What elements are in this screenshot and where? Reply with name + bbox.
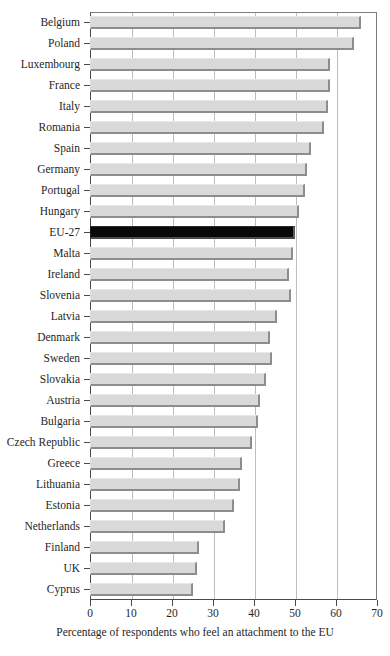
y-axis-label-lithuania: Lithuania (36, 474, 80, 495)
y-axis-label-finland: Finland (45, 537, 80, 558)
y-axis-label-czech-republic: Czech Republic (7, 432, 80, 453)
bar-row (90, 432, 377, 453)
x-axis-tick-10 (131, 600, 132, 606)
y-axis-label-poland: Poland (48, 33, 80, 54)
bar-row (90, 264, 377, 285)
x-axis-tick-label-60: 60 (321, 607, 351, 619)
bar-czech-republic[interactable] (90, 436, 252, 449)
bar-malta[interactable] (90, 247, 293, 260)
bar-row (90, 474, 377, 495)
y-axis-label-portugal: Portugal (41, 180, 80, 201)
bar-france[interactable] (90, 79, 330, 92)
x-axis-tick-0 (90, 600, 91, 606)
bar-row (90, 558, 377, 579)
bar-row (90, 201, 377, 222)
y-axis-label-hungary: Hungary (40, 201, 80, 222)
x-axis-tick-label-70: 70 (362, 607, 390, 619)
bar-row (90, 54, 377, 75)
bar-romania[interactable] (90, 121, 324, 134)
y-axis-label-bulgaria: Bulgaria (40, 411, 80, 432)
y-axis-label-austria: Austria (46, 390, 80, 411)
y-axis-label-uk: UK (63, 558, 80, 579)
x-axis-tick-20 (172, 600, 173, 606)
y-axis-label-greece: Greece (47, 453, 80, 474)
bar-row (90, 159, 377, 180)
bar-row (90, 453, 377, 474)
bar-row (90, 138, 377, 159)
bar-row (90, 285, 377, 306)
y-axis-label-netherlands: Netherlands (24, 516, 80, 537)
bars-layer (90, 12, 377, 600)
y-axis-label-malta: Malta (53, 243, 80, 264)
bar-denmark[interactable] (90, 331, 270, 344)
bar-row (90, 117, 377, 138)
bar-row (90, 348, 377, 369)
x-axis-tick-30 (213, 600, 214, 606)
x-axis-tick-label-30: 30 (198, 607, 228, 619)
bar-slovenia[interactable] (90, 289, 291, 302)
bar-cyprus[interactable] (90, 583, 193, 596)
bar-uk[interactable] (90, 562, 197, 575)
bar-luxembourg[interactable] (90, 58, 330, 71)
x-axis-tick-50 (295, 600, 296, 606)
bar-portugal[interactable] (90, 184, 305, 197)
y-axis-category-labels: BelgiumPolandLuxembourgFranceItalyRomani… (0, 12, 86, 600)
y-axis-label-ireland: Ireland (47, 264, 80, 285)
bar-row (90, 327, 377, 348)
y-axis-label-spain: Spain (54, 138, 80, 159)
y-axis-label-denmark: Denmark (37, 327, 80, 348)
y-axis-label-italy: Italy (59, 96, 80, 117)
y-axis-label-france: France (49, 75, 80, 96)
bar-eu-27[interactable] (90, 226, 295, 239)
bar-chart: BelgiumPolandLuxembourgFranceItalyRomani… (0, 0, 390, 656)
y-axis-label-slovakia: Slovakia (40, 369, 80, 390)
bar-row (90, 12, 377, 33)
bar-row (90, 537, 377, 558)
bar-italy[interactable] (90, 100, 328, 113)
bar-finland[interactable] (90, 541, 199, 554)
bar-row (90, 75, 377, 96)
bar-row (90, 495, 377, 516)
bar-germany[interactable] (90, 163, 307, 176)
y-axis-label-latvia: Latvia (51, 306, 80, 327)
y-axis-label-eu-27: EU-27 (49, 222, 80, 243)
bar-row (90, 180, 377, 201)
bar-hungary[interactable] (90, 205, 299, 218)
x-axis-tick-70 (377, 600, 378, 606)
bar-ireland[interactable] (90, 268, 289, 281)
bar-row (90, 369, 377, 390)
y-axis-label-romania: Romania (38, 117, 80, 138)
bar-poland[interactable] (90, 37, 354, 50)
bar-greece[interactable] (90, 457, 242, 470)
bar-estonia[interactable] (90, 499, 234, 512)
bar-row (90, 516, 377, 537)
bar-row (90, 411, 377, 432)
bar-bulgaria[interactable] (90, 415, 258, 428)
bar-row (90, 390, 377, 411)
x-axis-tick-label-50: 50 (280, 607, 310, 619)
bar-spain[interactable] (90, 142, 311, 155)
bar-netherlands[interactable] (90, 520, 225, 533)
bar-slovakia[interactable] (90, 373, 266, 386)
x-axis-tick-label-0: 0 (75, 607, 105, 619)
y-axis-label-slovenia: Slovenia (40, 285, 80, 306)
x-axis-title: Percentage of respondents who feel an at… (0, 626, 390, 638)
bar-sweden[interactable] (90, 352, 272, 365)
y-axis-label-germany: Germany (37, 159, 80, 180)
y-axis-label-cyprus: Cyprus (47, 579, 80, 600)
x-axis-tick-40 (254, 600, 255, 606)
y-axis-label-estonia: Estonia (46, 495, 81, 516)
bar-austria[interactable] (90, 394, 260, 407)
bar-row (90, 222, 377, 243)
bar-row (90, 306, 377, 327)
bar-row (90, 96, 377, 117)
bar-lithuania[interactable] (90, 478, 240, 491)
bar-belgium[interactable] (90, 16, 361, 29)
x-axis-tick-label-10: 10 (116, 607, 146, 619)
bar-latvia[interactable] (90, 310, 277, 323)
x-axis-tick-label-40: 40 (239, 607, 269, 619)
x-axis-tick-label-20: 20 (157, 607, 187, 619)
y-axis-label-luxembourg: Luxembourg (21, 54, 80, 75)
y-axis-label-sweden: Sweden (44, 348, 80, 369)
bar-row (90, 33, 377, 54)
